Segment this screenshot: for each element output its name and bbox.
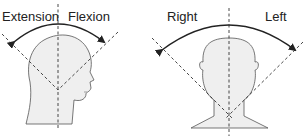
left-label: Left xyxy=(265,10,287,23)
profile-head xyxy=(26,35,94,124)
front-head xyxy=(191,38,268,128)
right-label: Right xyxy=(167,10,197,23)
flexion-label: Flexion xyxy=(68,10,110,23)
extension-label: Extension xyxy=(2,10,59,23)
